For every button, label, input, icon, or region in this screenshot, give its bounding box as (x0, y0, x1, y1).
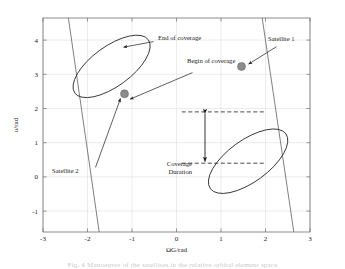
x-tick-label: 3 (308, 235, 312, 243)
y-tick-label: -1 (32, 208, 38, 216)
satellite-1-marker (238, 62, 246, 70)
x-tick-label: 1 (219, 235, 223, 243)
satellite-2-label: Satellite 2 (52, 167, 79, 174)
coverage-duration-label-line1: Coverage (167, 160, 192, 167)
satellite-2-marker (121, 90, 129, 98)
x-tick-label: 0 (175, 235, 179, 243)
begin-of-coverage-label: Begin of coverage (187, 57, 235, 64)
y-tick-label: 4 (35, 37, 39, 45)
y-tick-label: 2 (35, 105, 39, 113)
x-tick-label: -3 (40, 235, 46, 243)
figure-caption: Fig. 4 Manoeuvre of the satellites in th… (0, 261, 345, 269)
y-axis-title: u/rad (12, 117, 20, 132)
x-tick-label: -2 (85, 235, 91, 243)
y-tick-label: 3 (35, 71, 39, 79)
coverage-duration-label-line2: Duration (169, 168, 193, 175)
satellite-1-label: Satellite 1 (268, 35, 295, 42)
relative-orbital-element-plot: -3 -2 -1 0 1 2 3 -1 0 1 2 3 4 ΩG/rad u/r… (0, 0, 345, 269)
x-axis-tick-labels: -3 -2 -1 0 1 2 3 (40, 235, 312, 243)
x-tick-label: 2 (264, 235, 268, 243)
figure-container: -3 -2 -1 0 1 2 3 -1 0 1 2 3 4 ΩG/rad u/r… (0, 0, 345, 269)
y-tick-label: 1 (35, 139, 39, 147)
x-tick-label: -1 (129, 235, 135, 243)
end-of-coverage-label: End of coverage (158, 34, 201, 41)
y-axis-tick-labels: -1 0 1 2 3 4 (32, 37, 38, 216)
x-axis-title: ΩG/rad (166, 246, 188, 254)
y-tick-label: 0 (35, 173, 39, 181)
